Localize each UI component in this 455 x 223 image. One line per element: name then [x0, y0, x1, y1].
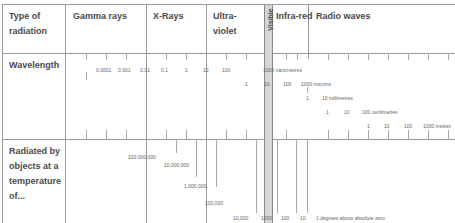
- tick: [226, 130, 227, 139]
- wl-scale1-5: 10: [203, 67, 209, 73]
- tick: [328, 130, 329, 139]
- tick: [368, 130, 369, 139]
- tick: [286, 53, 287, 60]
- temp-line: [296, 139, 297, 213]
- header-row-label: Type of radiation: [9, 9, 47, 39]
- wl-scale4-2: 100 centimetres: [362, 109, 398, 115]
- tick: [166, 53, 167, 60]
- wl-scale1-1: 0.001: [118, 67, 131, 73]
- tick: [106, 53, 107, 60]
- wl-scale3-0: 1: [306, 95, 309, 101]
- tick: [368, 53, 369, 60]
- temp-line: [176, 139, 177, 153]
- temp-line: [307, 139, 308, 213]
- top-border: [2, 4, 455, 5]
- tick: [328, 53, 329, 60]
- wl-scale1-3: 0.1: [161, 67, 168, 73]
- header-infrared: Infra-red: [276, 9, 313, 24]
- tick: [348, 53, 349, 60]
- connector: [86, 72, 87, 80]
- col-sep-label: [65, 4, 66, 223]
- temperature-label-line3: temperature: [9, 174, 61, 189]
- wl-scale5-1: 10: [384, 123, 390, 129]
- temp-1: 10,000,000: [164, 162, 189, 168]
- col-left-edge: [2, 4, 3, 223]
- tick: [246, 130, 247, 139]
- temp-3: 100,000: [205, 200, 223, 206]
- wl-scale2-0: 1: [245, 81, 248, 87]
- tick: [186, 53, 187, 60]
- tick: [86, 130, 87, 139]
- tick: [408, 130, 409, 139]
- tick: [166, 130, 167, 139]
- tick: [388, 53, 389, 60]
- wl-scale2-1: 10: [264, 81, 270, 87]
- wl-scale3-1: 10 millimetres: [322, 95, 353, 101]
- temp-0: 100,000,000: [128, 154, 156, 160]
- header-visible: Visible: [267, 8, 274, 30]
- wl-scale5-0: 1: [367, 123, 370, 129]
- wl-scale4-1: 10: [344, 109, 350, 115]
- wl-scale4-0: 1: [326, 109, 329, 115]
- temp-6: 100: [281, 215, 289, 221]
- wl-scale1-0: 0.0001: [96, 67, 111, 73]
- tick: [86, 53, 87, 60]
- tick: [106, 130, 107, 139]
- tick: [297, 53, 298, 60]
- tick: [226, 53, 227, 60]
- temp-line: [216, 139, 217, 187]
- tick: [428, 130, 429, 139]
- wl-scale5-3: 1000 metres: [423, 123, 451, 129]
- header-gamma-rays: Gamma rays: [73, 9, 127, 24]
- col-sep-xray: [206, 4, 207, 223]
- tick: [448, 53, 449, 60]
- temp-2: 1,000,000: [184, 183, 206, 189]
- tick: [448, 130, 449, 139]
- temperature-label-line2: objects at a: [9, 159, 61, 174]
- tick: [428, 53, 429, 60]
- col-sep-gamma: [146, 4, 147, 223]
- wavelength-label: Wavelength: [9, 58, 59, 73]
- header-row-label-line1: Type of: [9, 9, 47, 24]
- tick: [126, 53, 127, 60]
- visible-band: [264, 5, 273, 223]
- tick: [186, 130, 187, 139]
- header-radio-waves: Radio waves: [316, 9, 371, 24]
- tick: [348, 130, 349, 139]
- tick: [286, 130, 287, 139]
- temperature-label-line1: Radiated by: [9, 144, 61, 159]
- temp-line: [277, 139, 278, 213]
- wl-scale2-3: 1000 microns: [301, 81, 331, 87]
- temp-8: 1 degrees above absolute zero: [316, 215, 385, 221]
- wl-scale1-6: 100: [222, 67, 230, 73]
- wl-scale2-2: 100: [283, 81, 291, 87]
- temp-line: [196, 139, 197, 177]
- header-ultraviolet-line2: violet: [213, 24, 237, 39]
- tick: [408, 53, 409, 60]
- temp-line: [256, 139, 257, 213]
- temp-7: 10: [300, 215, 306, 221]
- header-x-rays: X-Rays: [153, 9, 184, 24]
- wavelength-divider: [2, 139, 455, 140]
- wl-scale1-4: 1: [185, 67, 188, 73]
- tick: [388, 130, 389, 139]
- tick: [246, 53, 247, 60]
- wl-scale1-7: 1000 nanometres: [263, 67, 302, 73]
- tick: [126, 130, 127, 139]
- temp-5: 1000: [261, 215, 272, 221]
- wl-scale1-2: 0.01: [140, 67, 150, 73]
- temperature-label: Radiated by objects at a temperature of.…: [9, 144, 61, 204]
- wl-scale5-2: 100: [404, 123, 412, 129]
- connector: [307, 87, 308, 93]
- temperature-label-line4: of...: [9, 189, 61, 204]
- header-ultraviolet: Ultra- violet: [213, 9, 237, 39]
- header-ultraviolet-line1: Ultra-: [213, 9, 237, 24]
- temp-4: 10,000: [233, 215, 248, 221]
- header-row-label-line2: radiation: [9, 24, 47, 39]
